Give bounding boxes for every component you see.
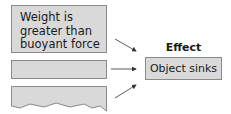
effect-box: Object sinks xyxy=(145,57,222,80)
effect-text: Object sinks xyxy=(150,62,217,75)
arrow-1 xyxy=(115,39,136,51)
effect-heading: Effect xyxy=(145,41,222,54)
cause-box-3-torn xyxy=(12,87,107,112)
arrow-3 xyxy=(115,85,136,98)
